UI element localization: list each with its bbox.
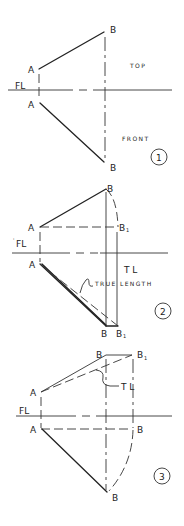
- point-b-front-label: B: [112, 493, 118, 503]
- point-a-top-label: A: [30, 388, 37, 398]
- revolution-arc: [106, 189, 118, 227]
- fold-line-label: FL: [16, 239, 26, 249]
- tl-label: T L: [120, 382, 134, 392]
- point-b-front-label: B: [101, 329, 107, 339]
- point-b-top-label: B: [110, 25, 116, 35]
- view-top-label: TOP: [129, 62, 146, 69]
- panel-number: 1: [156, 153, 162, 163]
- line-ab-top-view: [40, 189, 106, 227]
- line-ab-top-view: [39, 32, 104, 69]
- line-ab-front-view: [40, 103, 104, 162]
- fold-line-tick: ': [13, 237, 14, 243]
- point-b-top-label: B: [96, 350, 102, 360]
- point-b-front-label: B: [110, 163, 116, 173]
- line-ab-front-view: [42, 429, 107, 492]
- view-front-label: FRONT: [122, 135, 150, 142]
- true-length-leader: [96, 370, 119, 386]
- point-b1-front-label: B: [116, 329, 122, 339]
- point-a-front-label: A: [28, 100, 35, 110]
- point-a-front-label: A: [29, 260, 36, 270]
- point-b-top-label: B: [107, 184, 113, 194]
- point-b1-top-label: B: [119, 223, 125, 233]
- point-b1-top-label: B: [137, 350, 143, 360]
- tl-label: T L: [123, 265, 137, 275]
- point-a-top-label: A: [28, 223, 35, 233]
- fold-line-label: FL: [15, 81, 25, 91]
- fold-line-label: FL: [19, 406, 29, 416]
- point-a-top-label: A: [28, 65, 35, 75]
- point-a-front-label: A: [30, 425, 37, 435]
- panel-3: B B 1 A T L FL A B B 3: [16, 350, 172, 503]
- panel-1: A B FL A B TOP FRONT 1: [8, 25, 172, 173]
- panel-2: B A B 1 ' FL A B B 1 T L TRUE LENGTH 2: [12, 184, 171, 339]
- descriptive-geometry-drawing: A B FL A B TOP FRONT 1 B: [0, 0, 184, 526]
- point-b-fl-label: B: [137, 425, 143, 435]
- line-ab-front-view: [40, 264, 106, 326]
- panel-number: 3: [159, 472, 165, 482]
- point-b1-front-subscript: 1: [123, 333, 126, 339]
- true-length-label: TRUE LENGTH: [94, 280, 153, 287]
- point-b1-top-subscript: 1: [144, 355, 147, 361]
- point-b1-top-subscript: 1: [126, 227, 129, 233]
- true-length-leader: [80, 279, 93, 293]
- revolution-arc: [109, 430, 133, 491]
- panel-number: 2: [160, 307, 166, 317]
- line-ab-top-view: [41, 355, 106, 392]
